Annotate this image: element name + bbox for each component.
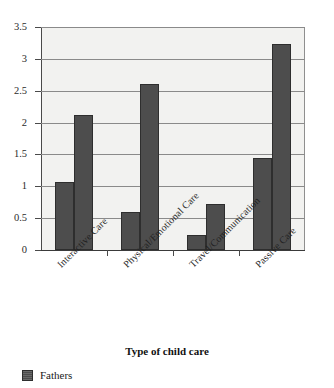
y-tick-label: 0 — [22, 245, 27, 255]
bar — [272, 44, 291, 250]
y-tick-label: 3 — [22, 54, 27, 64]
x-tick-mark — [239, 250, 240, 256]
y-tick-label: 2.5 — [14, 86, 27, 96]
x-tick-mark — [173, 250, 174, 256]
bar-chart: 00.511.522.533.5 Interactive CarePhysica… — [0, 0, 334, 388]
y-tick-label: 1 — [22, 181, 27, 191]
y-tick-label: 3.5 — [14, 22, 27, 32]
y-tick-label: 0.5 — [14, 213, 27, 223]
y-tick-mark — [35, 250, 41, 251]
legend-swatch-fathers — [22, 370, 33, 381]
bar — [55, 182, 74, 250]
chart-legend: Fathers — [22, 369, 72, 381]
y-tick-label: 1.5 — [14, 149, 27, 159]
legend-label-fathers: Fathers — [40, 369, 72, 381]
x-axis-title: Type of child care — [0, 345, 334, 357]
y-tick-label: 2 — [22, 118, 27, 128]
x-tick-mark — [107, 250, 108, 256]
